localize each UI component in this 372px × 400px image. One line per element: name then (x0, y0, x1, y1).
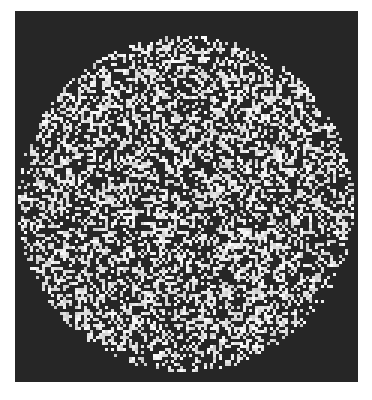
stimulus-image (0, 0, 372, 400)
random-dot-disk (0, 0, 372, 400)
